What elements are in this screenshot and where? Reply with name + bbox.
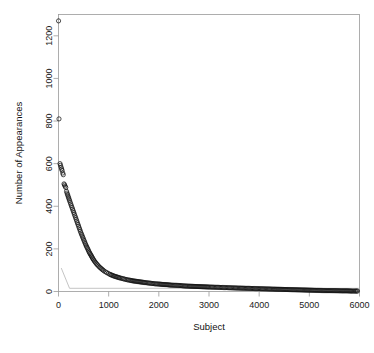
y-tick-label: 400: [44, 199, 54, 214]
x-tick-label: 6000: [349, 300, 369, 310]
x-tick-label: 2000: [149, 300, 169, 310]
y-tick-label: 1000: [44, 68, 54, 88]
y-tick-label: 0: [44, 289, 54, 294]
y-tick-label: 1200: [44, 26, 54, 46]
y-tick-label: 200: [44, 241, 54, 256]
y-tick-label: 600: [44, 156, 54, 171]
x-tick-label: 4000: [249, 300, 269, 310]
x-tick-label: 3000: [199, 300, 219, 310]
y-tick-label: 800: [44, 114, 54, 129]
x-tick-label: 0: [56, 300, 61, 310]
scatter-chart: 0100020003000400050006000 02004006008001…: [0, 0, 374, 353]
y-axis-title: Number of Appearances: [13, 102, 24, 205]
x-axis-title: Subject: [193, 321, 225, 332]
x-tick-label: 1000: [99, 300, 119, 310]
x-tick-label: 5000: [299, 300, 319, 310]
plot-root: 0100020003000400050006000 02004006008001…: [0, 0, 374, 353]
